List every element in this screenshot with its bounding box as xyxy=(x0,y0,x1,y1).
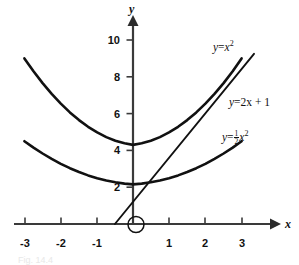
curve-label-line-rhs: 2x + 1 xyxy=(241,96,271,108)
y-axis-arrowhead xyxy=(128,15,139,26)
x-tick-label--2: -2 xyxy=(47,238,75,249)
x-tick-label-2: 2 xyxy=(191,238,219,249)
x-axis-label: x xyxy=(285,218,291,230)
fraction-denominator: 2 xyxy=(234,138,239,146)
y-tick-label-8: 8 xyxy=(94,72,120,83)
y-tick-label-4: 4 xyxy=(94,145,120,156)
x-tick-label--3: -3 xyxy=(11,238,39,249)
curve-label-half-exponent: 2 xyxy=(244,129,248,138)
curve-label-y-equals-x-squared: y=x2 xyxy=(213,42,234,54)
x-axis-arrowhead xyxy=(270,219,281,230)
x-tick-label--1: -1 xyxy=(83,238,111,249)
y-tick-label-6: 6 xyxy=(94,109,120,120)
fraction-one-half: 12 xyxy=(234,130,239,147)
curve-label-y-equals-2x-plus-1: y=2x + 1 xyxy=(229,97,270,109)
y-tick-label-10: 10 xyxy=(94,35,120,46)
x-tick-label-1: 1 xyxy=(155,238,183,249)
curve-label-parabola-exponent: 2 xyxy=(230,39,234,48)
y-axis-label: y xyxy=(129,3,134,15)
figure-caption: Fig. 14.4 xyxy=(18,256,53,265)
y-tick-label-2: 2 xyxy=(94,182,120,193)
x-tick-label-3: 3 xyxy=(228,238,256,249)
curve-label-half-eq: = xyxy=(227,131,234,143)
plot-area xyxy=(0,0,299,265)
curve-label-y-equals-half-x-squared: y=12x2 xyxy=(222,130,248,147)
figure-graph-of-parabolas-and-line: y x 10 8 6 4 2 -3 -2 -1 1 2 3 y=x2 y=2x … xyxy=(0,0,299,265)
